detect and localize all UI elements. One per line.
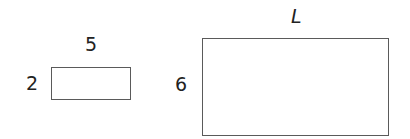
large-rect-height-label: 6 xyxy=(175,75,187,94)
large-rect-width-label: L xyxy=(291,7,302,26)
small-rect-height-label: 2 xyxy=(26,74,38,93)
small-rectangle xyxy=(51,67,131,100)
small-rect-width-label: 5 xyxy=(85,35,97,54)
large-rectangle xyxy=(202,38,389,136)
